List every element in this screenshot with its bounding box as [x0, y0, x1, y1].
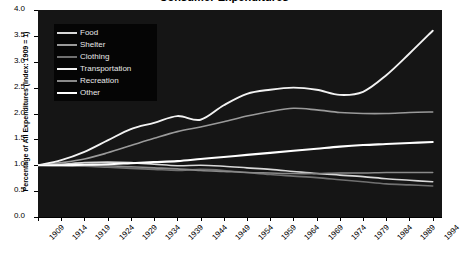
legend: FoodShelterClothingTransportationRecreat… [54, 24, 157, 101]
x-tick-mark [317, 217, 318, 221]
legend-item-recreation[interactable]: Recreation [57, 75, 157, 87]
x-tick-mark [61, 217, 62, 221]
y-axis-ticks: 0.00.51.01.52.02.53.03.54.0 [0, 0, 33, 218]
x-tick-mark [84, 217, 85, 221]
x-tick-label: 1919 [94, 223, 113, 242]
x-tick-label: 1914 [70, 223, 89, 242]
y-tick-label: 2.5 [14, 83, 25, 91]
x-tick-mark [340, 217, 341, 221]
legend-label: Clothing [80, 51, 109, 63]
x-axis-ticks: 1909191419191924192919341939194419491954… [38, 217, 442, 258]
x-tick-mark [247, 217, 248, 221]
x-tick-mark [224, 217, 225, 221]
x-tick-label: 1944 [210, 223, 229, 242]
x-tick-label: 1909 [47, 223, 66, 242]
legend-swatch-icon [57, 92, 77, 94]
x-tick-label: 1934 [163, 223, 182, 242]
legend-label: Recreation [80, 75, 119, 87]
x-tick-mark [201, 217, 202, 221]
x-tick-mark [293, 217, 294, 221]
x-tick-mark [270, 217, 271, 221]
x-tick-mark [363, 217, 364, 221]
x-tick-label: 1969 [326, 223, 345, 242]
x-tick-label: 1954 [256, 223, 275, 242]
x-tick-mark [131, 217, 132, 221]
x-tick-label: 1964 [303, 223, 322, 242]
x-tick-mark [433, 217, 434, 221]
legend-swatch-icon [57, 32, 77, 34]
legend-label: Other [80, 87, 100, 99]
x-tick-label: 1929 [140, 223, 159, 242]
x-tick-label: 1984 [395, 223, 414, 242]
x-tick-mark [409, 217, 410, 221]
x-tick-mark [38, 217, 39, 221]
x-tick-label: 1979 [372, 223, 391, 242]
x-tick-mark [154, 217, 155, 221]
x-tick-label: 1974 [349, 223, 368, 242]
y-tick-label: 4.0 [14, 5, 25, 13]
y-tick-label: 1.5 [14, 134, 25, 142]
series-line-clothing [38, 165, 433, 186]
legend-swatch-icon [57, 44, 77, 46]
x-tick-label: 1924 [117, 223, 136, 242]
y-tick-label: 1.0 [14, 160, 25, 168]
chart-title: Consumer Expenditures [0, 0, 448, 3]
y-tick-label: 3.0 [14, 57, 25, 65]
x-tick-mark [386, 217, 387, 221]
legend-label: Shelter [80, 39, 105, 51]
legend-label: Transportation [80, 63, 131, 75]
x-tick-mark [177, 217, 178, 221]
legend-label: Food [80, 27, 98, 39]
x-tick-label: 1994 [442, 223, 461, 242]
y-tick-label: 2.0 [14, 109, 25, 117]
legend-item-food[interactable]: Food [57, 27, 157, 39]
y-tick-label: 3.5 [14, 31, 25, 39]
legend-item-other[interactable]: Other [57, 87, 157, 99]
y-tick-label: 0.0 [14, 212, 25, 220]
legend-swatch-icon [57, 80, 77, 82]
x-tick-label: 1949 [233, 223, 252, 242]
legend-swatch-icon [57, 56, 77, 58]
legend-item-transportation[interactable]: Transportation [57, 63, 157, 75]
legend-item-shelter[interactable]: Shelter [57, 39, 157, 51]
x-tick-label: 1989 [419, 223, 438, 242]
y-tick-label: 0.5 [14, 186, 25, 194]
legend-swatch-icon [57, 68, 77, 70]
x-tick-label: 1939 [187, 223, 206, 242]
legend-item-clothing[interactable]: Clothing [57, 51, 157, 63]
x-tick-label: 1959 [279, 223, 298, 242]
x-tick-mark [108, 217, 109, 221]
